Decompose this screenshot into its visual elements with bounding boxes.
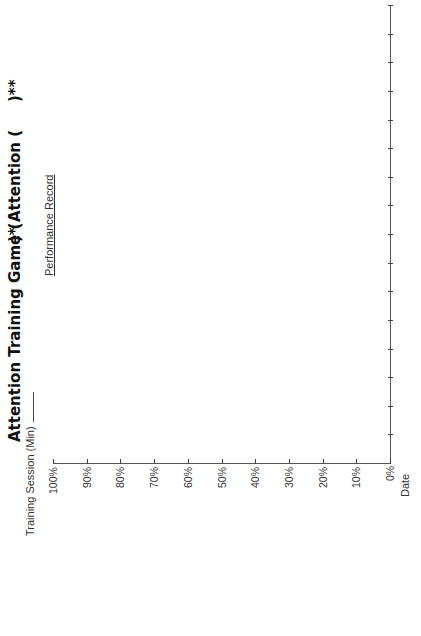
percent-tick (120, 459, 121, 464)
percent-tick (356, 459, 357, 464)
percent-tick (188, 459, 189, 464)
date-tick (388, 349, 393, 350)
date-tick (388, 320, 393, 321)
date-tick (388, 263, 393, 264)
percent-tick (323, 459, 324, 464)
percent-tick-label: 30% (283, 467, 295, 488)
percent-tick (87, 459, 88, 464)
percent-tick (390, 459, 391, 464)
date-tick (388, 34, 393, 35)
percent-tick-label: 0% (384, 466, 396, 481)
percent-tick-label: 70% (148, 467, 160, 488)
percent-tick (53, 459, 54, 464)
date-tick (388, 291, 393, 292)
percent-tick-label: 60% (182, 467, 194, 488)
title-part-2: )* Attention ( (6, 130, 24, 242)
percent-tick (222, 459, 223, 464)
date-axis-label: Date (399, 474, 411, 497)
date-tick (388, 62, 393, 63)
percent-tick-label: 10% (350, 467, 362, 488)
percent-tick-label: 80% (114, 467, 126, 488)
performance-record-heading: Performance Record (43, 175, 55, 277)
date-tick (388, 377, 393, 378)
date-tick (388, 205, 393, 206)
percent-tick (289, 459, 290, 464)
date-tick (388, 406, 393, 407)
date-tick (388, 234, 393, 235)
date-tick (388, 434, 393, 435)
percent-tick (154, 459, 155, 464)
date-tick (388, 120, 393, 121)
training-session-field[interactable]: Training Session (Min) (24, 392, 36, 536)
percent-tick-label: 100% (47, 467, 59, 494)
date-tick (388, 91, 393, 92)
training-session-blank[interactable] (32, 392, 34, 422)
title-part-1: Attention Training Game ( (6, 223, 24, 442)
percent-tick-label: 90% (81, 467, 93, 488)
training-session-label: Training Session (Min) (24, 426, 36, 536)
date-tick (388, 148, 393, 149)
percent-tick (255, 459, 256, 464)
percent-tick-label: 40% (249, 467, 261, 488)
date-tick (388, 5, 393, 6)
percent-tick-label: 50% (216, 467, 228, 488)
percent-tick-label: 20% (317, 467, 329, 488)
date-tick (388, 177, 393, 178)
title-part-3: )** (6, 79, 24, 102)
